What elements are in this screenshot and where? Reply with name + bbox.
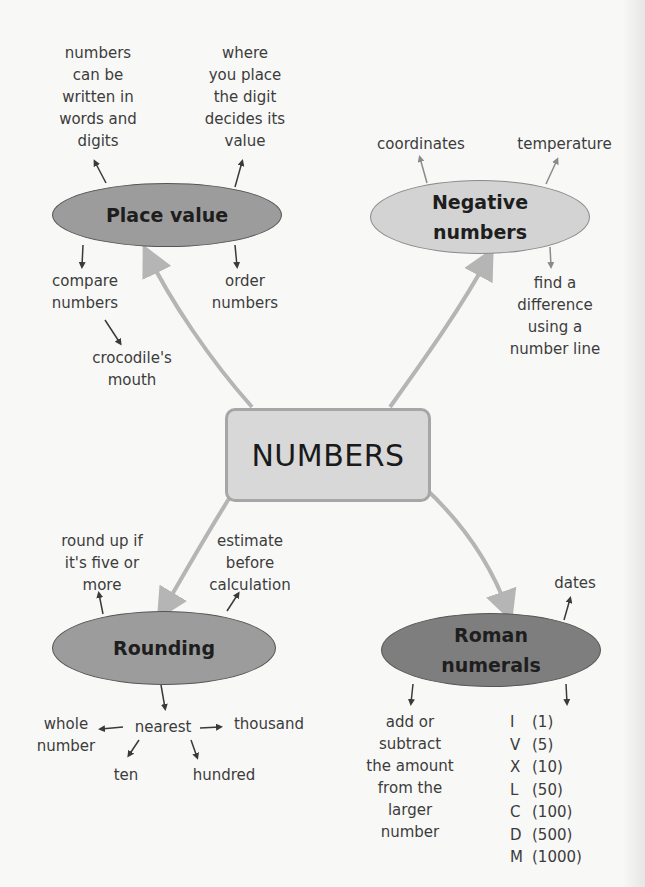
branch-nearest: nearest xyxy=(128,716,198,738)
branch-add-subtract: add or subtract the amount from the larg… xyxy=(360,711,460,843)
branch-estimate: estimate before calculation xyxy=(200,530,300,596)
branch-whole-number: whole number xyxy=(34,713,98,757)
branch-ten: ten xyxy=(106,764,146,786)
node-roman-numerals[interactable]: Roman numerals xyxy=(381,613,601,687)
roman-numeral-table: I(1) V(5) X(10) L(50) C(100) D(500) M(10… xyxy=(510,711,582,869)
central-topic-numbers[interactable]: NUMBERS xyxy=(225,408,431,502)
branch-temperature: temperature xyxy=(512,133,617,155)
branch-compare-numbers: compare numbers xyxy=(40,270,130,314)
branch-coordinates: coordinates xyxy=(366,133,476,155)
connector-negative xyxy=(390,258,488,407)
roman-row: M(1000) xyxy=(510,846,582,869)
node-place-value[interactable]: Place value xyxy=(52,183,282,247)
roman-row: I(1) xyxy=(510,711,582,734)
node-rounding[interactable]: Rounding xyxy=(52,611,276,685)
branch-round-up: round up if it's five or more xyxy=(52,530,152,596)
branch-order-numbers: order numbers xyxy=(200,270,290,314)
connector-roman xyxy=(425,488,508,611)
branch-dates: dates xyxy=(545,572,605,594)
roman-row: V(5) xyxy=(510,734,582,757)
branch-crocodile-mouth: crocodile's mouth xyxy=(82,347,182,391)
node-place-value-label: Place value xyxy=(106,200,228,230)
roman-row: X(10) xyxy=(510,756,582,779)
roman-row: D(500) xyxy=(510,824,582,847)
roman-row: C(100) xyxy=(510,801,582,824)
roman-row: L(50) xyxy=(510,779,582,802)
node-negative-numbers[interactable]: Negative numbers xyxy=(370,180,590,254)
branch-numbers-words: numbers can be written in words and digi… xyxy=(48,42,148,152)
node-rounding-label: Rounding xyxy=(113,633,215,663)
branch-thousand: thousand xyxy=(232,713,306,735)
branch-where-place: where you place the digit decides its va… xyxy=(195,42,295,152)
branch-hundred: hundred xyxy=(190,764,258,786)
branch-find-difference: find a difference using a number line xyxy=(505,272,605,360)
